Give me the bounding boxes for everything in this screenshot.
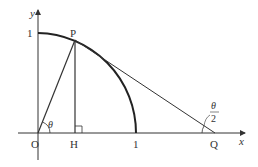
point-H-label: H (70, 138, 78, 150)
x-one-label: 1 (133, 138, 139, 150)
origin-label: O (31, 138, 39, 150)
half-theta-numerator: θ (211, 100, 216, 111)
unit-circle-diagram: y x 1 P O H 1 Q θ θ 2 (0, 0, 258, 167)
y-one-label: 1 (27, 27, 33, 39)
right-angle-mark (75, 126, 82, 133)
y-axis-label: y (29, 7, 35, 19)
theta-label: θ (48, 119, 53, 130)
x-axis-label: x (238, 135, 244, 147)
half-theta-arc (202, 126, 204, 133)
half-theta-denominator: 2 (211, 113, 216, 124)
segment-PQ (75, 40, 215, 133)
point-Q-label: Q (210, 138, 218, 150)
point-P-label: P (70, 27, 76, 39)
half-theta-pointer (204, 115, 210, 126)
segment-OP (38, 40, 75, 133)
